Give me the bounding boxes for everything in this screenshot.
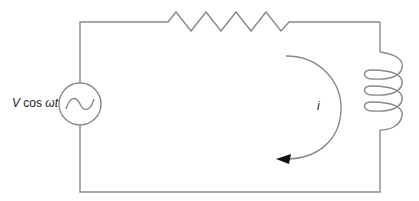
circuit-diagram: [0, 0, 419, 201]
sine-wave-icon: [66, 99, 94, 110]
wire-left-top: [80, 22, 168, 83]
source-label-v: V: [12, 96, 20, 110]
wire-right-bottom: [80, 125, 380, 192]
resistor: [168, 12, 380, 31]
source-label-omega-t: ωt: [45, 96, 58, 110]
arrowhead-icon: [276, 154, 291, 164]
source-label-cos: cos: [20, 96, 45, 110]
current-arrow: [276, 56, 341, 164]
source-label: V cos ωt: [12, 96, 58, 110]
current-label: i: [317, 99, 320, 113]
inductor: [365, 52, 403, 130]
ac-source: [59, 83, 101, 125]
